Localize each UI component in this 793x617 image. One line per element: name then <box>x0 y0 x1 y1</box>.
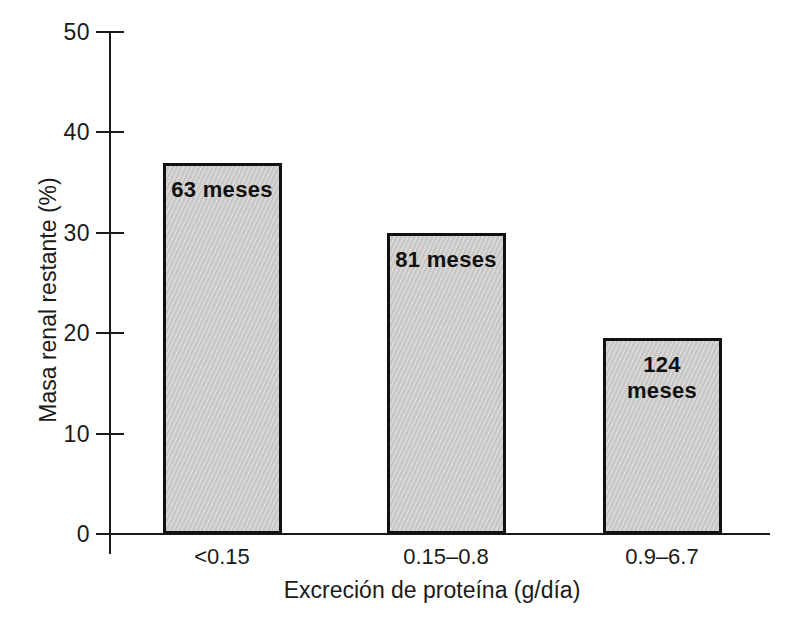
x-axis-title: Excreción de proteína (g/día) <box>132 577 732 604</box>
x-category-label: <0.15 <box>112 543 332 571</box>
y-tick-mark <box>96 533 124 535</box>
y-tick-mark <box>96 433 124 435</box>
y-tick-mark <box>96 232 124 234</box>
bar-value-label: 63 meses <box>166 177 279 203</box>
y-tick-label: 10 <box>0 420 90 448</box>
bar: 124 meses <box>603 338 722 534</box>
y-axis-line <box>109 31 111 554</box>
y-tick-mark <box>96 31 124 33</box>
x-category-label: 0.15–0.8 <box>336 543 556 571</box>
y-tick-mark <box>96 332 124 334</box>
bar: 81 meses <box>387 233 506 534</box>
y-tick-mark <box>96 131 124 133</box>
y-tick-label: 50 <box>0 18 90 46</box>
y-tick-label: 20 <box>0 319 90 347</box>
y-tick-label: 40 <box>0 118 90 146</box>
bar-value-label: 124 meses <box>606 352 719 404</box>
x-category-label: 0.9–6.7 <box>552 543 772 571</box>
y-tick-label: 30 <box>0 219 90 247</box>
y-tick-label: 0 <box>0 520 90 548</box>
bar: 63 meses <box>163 163 282 534</box>
bar-value-label: 81 meses <box>390 247 503 273</box>
bar-chart-figure: Masa renal restante (%) 01020304050 63 m… <box>0 0 793 617</box>
y-axis-title: Masa renal restante (%) <box>35 150 61 450</box>
